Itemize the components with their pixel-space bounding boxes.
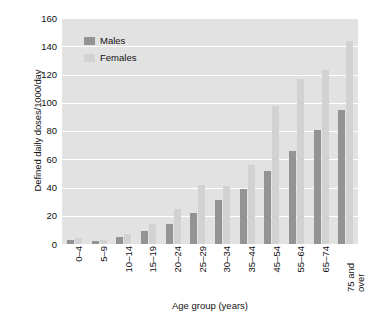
y-tick-100: 100 xyxy=(17,98,57,108)
bar-group-25-29 xyxy=(185,18,210,244)
bar-female-35-44 xyxy=(248,165,255,244)
x-tick-5-9: 5–9 xyxy=(87,246,112,298)
bar-male-55-64 xyxy=(289,151,296,244)
x-tick-label-45-54: 45–54 xyxy=(272,246,282,272)
x-tick-10-14: 10–14 xyxy=(111,246,136,298)
y-tick-120: 120 xyxy=(17,70,57,80)
bar-female-10-14 xyxy=(124,234,131,244)
bar-chart-figure: Defined daily doses/1000/day 160 140 120… xyxy=(0,0,375,322)
y-tick-20: 20 xyxy=(17,211,57,221)
legend-swatch-females-icon xyxy=(84,54,95,62)
legend: Males Females xyxy=(84,34,136,68)
bar-female-65-74 xyxy=(322,70,329,244)
x-tick-label-65-74: 65–74 xyxy=(321,246,331,272)
bar-male-15-19 xyxy=(141,231,148,244)
x-tick-0-4: 0–4 xyxy=(62,246,87,298)
bar-group-65-74 xyxy=(309,18,334,244)
bar-group-0-4 xyxy=(62,18,87,244)
x-tick-label-0-4: 0–4 xyxy=(74,246,84,262)
x-tick-label-55-64: 55–64 xyxy=(296,246,306,272)
bar-female-30-34 xyxy=(223,186,230,244)
x-tick-15-19: 15–19 xyxy=(136,246,161,298)
bar-male-5-9 xyxy=(92,241,99,244)
bar-male-25-29 xyxy=(190,213,197,244)
bar-female-45-54 xyxy=(272,106,279,244)
bar-group-20-24 xyxy=(161,18,186,244)
x-tick-label-25-29: 25–29 xyxy=(198,246,208,272)
y-tick-160: 160 xyxy=(17,14,57,24)
bar-group-15-19 xyxy=(136,18,161,244)
y-tick-0: 0 xyxy=(17,240,57,250)
legend-item-males: Males xyxy=(84,34,136,48)
y-tick-40: 40 xyxy=(17,183,57,193)
bar-male-35-44 xyxy=(240,189,247,244)
x-tick-35-44: 35–44 xyxy=(235,246,260,298)
bar-male-20-24 xyxy=(166,224,173,244)
x-tick-label-5-9: 5–9 xyxy=(99,246,109,262)
bar-group-75-and-over xyxy=(333,18,358,244)
x-tick-label-20-24: 20–24 xyxy=(173,246,183,272)
bar-group-30-34 xyxy=(210,18,235,244)
bar-female-15-19 xyxy=(149,224,156,244)
legend-swatch-males-icon xyxy=(84,37,95,45)
x-tick-label-35-44: 35–44 xyxy=(247,246,257,272)
x-tick-45-54: 45–54 xyxy=(259,246,284,298)
legend-item-females: Females xyxy=(84,51,136,65)
x-axis-title: Age group (years) xyxy=(62,300,358,311)
bar-male-0-4 xyxy=(67,240,74,244)
bar-female-20-24 xyxy=(174,209,181,244)
x-tick-65-74: 65–74 xyxy=(309,246,334,298)
y-tick-80: 80 xyxy=(17,126,57,136)
legend-label-males: Males xyxy=(100,34,125,48)
x-tick-55-64: 55–64 xyxy=(284,246,309,298)
y-tick-60: 60 xyxy=(17,155,57,165)
bar-group-45-54 xyxy=(259,18,284,244)
bar-male-65-74 xyxy=(314,130,321,244)
bar-female-5-9 xyxy=(100,240,107,244)
bar-group-55-64 xyxy=(284,18,309,244)
bar-male-45-54 xyxy=(264,171,271,245)
y-tick-140: 140 xyxy=(17,42,57,52)
bar-female-75-and-over xyxy=(346,41,353,244)
plot-area: Males Females xyxy=(62,18,358,244)
bar-male-10-14 xyxy=(116,237,123,244)
bar-male-30-34 xyxy=(215,200,222,244)
x-tick-75-and-over: 75 and over xyxy=(333,246,358,298)
x-tick-label-10-14: 10–14 xyxy=(124,246,134,272)
x-tick-25-29: 25–29 xyxy=(185,246,210,298)
x-tick-20-24: 20–24 xyxy=(161,246,186,298)
x-tick-label-15-19: 15–19 xyxy=(148,246,158,272)
x-tick-30-34: 30–34 xyxy=(210,246,235,298)
bar-male-75-and-over xyxy=(338,110,345,244)
bar-female-25-29 xyxy=(198,185,205,244)
bar-female-0-4 xyxy=(75,238,82,244)
bar-female-55-64 xyxy=(297,79,304,244)
x-tick-label-75-and-over: 75 and over xyxy=(346,246,366,292)
x-tick-label-30-34: 30–34 xyxy=(222,246,232,272)
x-axis-ticks: 0–4 5–9 10–14 15–19 20–24 25–29 30–34 35… xyxy=(62,246,358,298)
bar-group-35-44 xyxy=(235,18,260,244)
legend-label-females: Females xyxy=(100,51,136,65)
